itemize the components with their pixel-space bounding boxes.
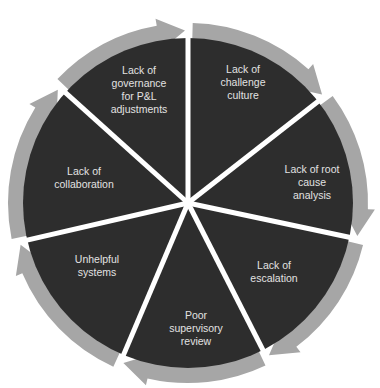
segment-label-collaboration: Lack of collaboration — [54, 165, 114, 191]
segment-label-supervisory-review: Poor supervisory review — [169, 309, 223, 348]
segment-label-unhelpful-systems: Unhelpful systems — [75, 253, 119, 279]
segment-label-challenge-culture: Lack of challenge culture — [221, 63, 266, 102]
segment-label-escalation: Lack of escalation — [250, 259, 297, 285]
segment-label-root-cause-analysis: Lack of root cause analysis — [278, 163, 346, 202]
segment-label-governance: Lack of governance for P&L adjustments — [111, 64, 168, 116]
